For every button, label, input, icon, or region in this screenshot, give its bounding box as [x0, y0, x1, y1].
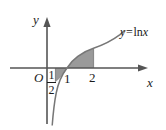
x-tick-label-one: 1	[64, 72, 71, 85]
y-axis-arrow-icon	[43, 17, 50, 27]
equation-argument: x	[143, 25, 148, 39]
fraction-numerator: 1	[49, 69, 55, 81]
x-tick-label-half: 1 2	[47, 69, 56, 96]
figure-canvas	[0, 0, 166, 130]
x-axis-label: x	[147, 76, 153, 89]
ln-x-integral-figure: y x O 1 2 1 2 y=lnx	[0, 0, 166, 130]
x-tick-label-two: 2	[89, 71, 96, 84]
origin-label: O	[34, 71, 43, 84]
shaded-region-above-axis	[67, 48, 94, 68]
y-axis-label: y	[33, 13, 39, 26]
curve-equation-label: y=lnx	[120, 26, 148, 38]
x-axis-arrow-icon	[138, 64, 148, 71]
equation-function-name: ln	[133, 25, 142, 39]
fraction-denominator: 2	[49, 84, 55, 96]
